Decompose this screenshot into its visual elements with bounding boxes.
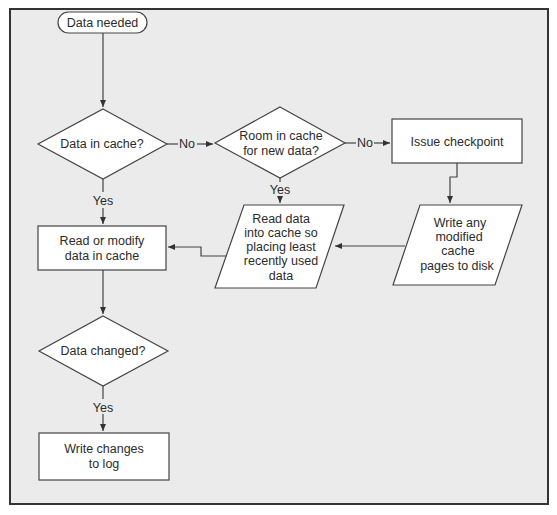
node-write-modified-label-3: cache (441, 244, 474, 258)
node-room-in-cache-label-1: Room in cache (239, 129, 322, 143)
node-room-in-cache-label-2: for new data? (243, 144, 319, 158)
node-write-modified-label-4: pages to disk (420, 259, 494, 273)
flowchart-canvas: No No Yes Yes Yes (0, 0, 557, 515)
node-issue-checkpoint-label: Issue checkpoint (410, 135, 504, 149)
edge-label-yes-2: Yes (270, 183, 290, 197)
node-write-log-label-2: to log (89, 457, 120, 471)
node-data-in-cache-label: Data in cache? (60, 137, 143, 151)
node-write-log-label-1: Write changes (64, 442, 144, 456)
edge-label-yes-1: Yes (93, 194, 113, 208)
edge-label-no-1: No (179, 137, 195, 151)
node-data-changed-label: Data changed? (61, 344, 146, 358)
node-read-modify-label-2: data in cache (65, 249, 139, 263)
node-write-modified-label-1: Write any (434, 216, 487, 230)
edge-label-yes-3: Yes (93, 401, 113, 415)
node-read-modify-label-1: Read or modify (60, 234, 146, 248)
node-read-data-label-5: data (269, 269, 293, 283)
edge-label-no-2: No (357, 136, 373, 150)
node-read-data-label-3: placing least (246, 240, 316, 254)
node-data-needed-label: Data needed (67, 16, 139, 30)
node-read-modify (38, 226, 166, 270)
node-read-data-label-1: Read data (252, 212, 310, 226)
node-write-modified-label-2: modified (435, 230, 482, 244)
node-read-data-label-4: recently used (244, 254, 318, 268)
node-read-data-label-2: into cache so (244, 226, 318, 240)
